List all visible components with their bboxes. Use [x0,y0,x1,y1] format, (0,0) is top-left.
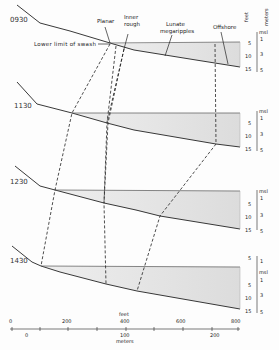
figure-caption-truncated [8,341,273,344]
depth-meter-tick: 1 [260,116,263,121]
depth-meter-tick: 5 [260,148,263,153]
depth-feet-tick: 5 [248,283,251,288]
label-inner-rough-2: rough [124,22,140,28]
depth-feet-tick: 15 [245,147,251,152]
time-label-1230: 1230 [10,179,28,186]
depth-meters-header: meters [264,8,269,26]
time-label-0930: 0930 [10,17,28,24]
depth-feet-tick: 15 [245,67,251,72]
x-feet-tick: 0 [9,319,12,324]
depth-meter-tick: 3 [260,293,263,298]
x-meter-tick: 200 [210,333,220,338]
x-feet-tick: 200 [62,319,72,324]
x-feet-tick: 800 [231,319,241,324]
depth-meter-tick: 5 [260,310,263,315]
depth-meter-tick: 3 [260,52,263,57]
label-offshore: Offshore [213,25,236,31]
depth-meter-tick: 3 [260,213,263,218]
depth-feet-tick: 5 [248,41,251,46]
depth-feet-tick: 15 [245,309,251,314]
msl-label: msl [259,109,268,114]
depth-meter-tick: 1 [260,37,263,42]
depth-meter-tick: 1 [260,278,263,283]
depth-feet-tick: 5 [248,121,251,126]
label-lunate-1: Lunate [166,22,185,28]
msl-label: msl [259,30,268,35]
label-planar: Planar [97,19,114,25]
depth-feet-tick: 10 [245,54,251,59]
depth-meter-tick: 5 [260,229,263,234]
depth-meter-tick: 1 [260,259,263,264]
panel-1130 [17,82,240,147]
msl-label: msl [259,189,268,194]
depth-feet-tick: 10 [245,215,251,220]
x-axis-feet-title: feet [119,312,129,317]
label-inner-rough-1: Inner [124,15,138,21]
time-label-1130: 1130 [14,103,32,110]
x-feet-tick: 400 [120,319,130,324]
label-lunate-2: megaripples [160,29,194,35]
x-axis [10,327,240,331]
x-feet-tick: 600 [176,319,186,324]
label-lower-limit-swash: Lower limit of swash [34,42,96,48]
depth-meter-tick: 3 [260,132,263,137]
depth-feet-tick: 5 [248,256,251,261]
profile-diagram [0,0,279,350]
depth-feet-tick: 10 [245,134,251,139]
depth-feet-tick: 10 [245,296,251,301]
depth-feet-tick: 15 [245,228,251,233]
x-meter-tick: 0 [25,333,28,338]
panel-1430 [12,246,240,309]
msl-label: msl [259,270,268,275]
depth-meter-tick: 5 [260,68,263,73]
time-label-1430: 1430 [10,258,28,265]
panel-1230 [15,166,240,229]
zone-boundary-lines [41,44,216,291]
depth-feet-tick: 5 [248,202,251,207]
figure: 0930 1130 1230 1430 Planar Inner rough L… [0,0,279,350]
depth-feet-header: feet [244,12,249,22]
depth-meter-tick: 1 [260,196,263,201]
